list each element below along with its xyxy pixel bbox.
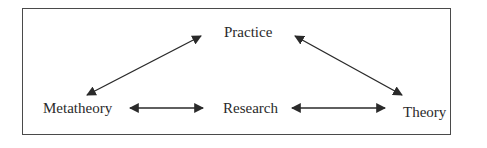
node-theory: Theory	[403, 105, 446, 120]
arrow-practice-metatheory	[87, 36, 201, 95]
node-research: Research	[223, 101, 278, 116]
arrow-practice-theory	[295, 36, 402, 95]
node-practice: Practice	[224, 25, 272, 40]
node-metatheory: Metatheory	[43, 101, 112, 116]
edges-layer	[0, 0, 487, 148]
